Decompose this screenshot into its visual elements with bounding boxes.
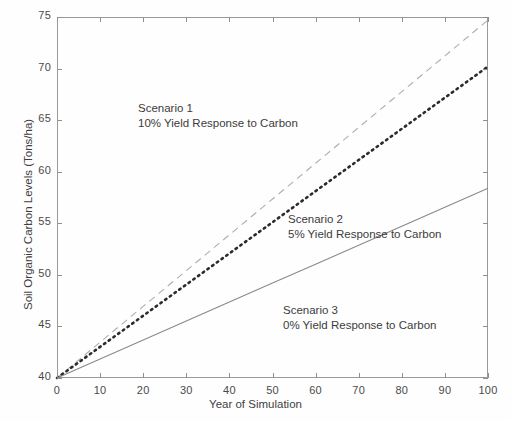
annotation-scenario-1-title: Scenario 1: [138, 102, 193, 114]
annotation-scenario-3-title: Scenario 3: [283, 304, 338, 316]
x-tick-top-50: [273, 17, 274, 22]
annotation-scenario-3-subtitle: 0% Yield Response to Carbon: [283, 318, 436, 333]
x-tick-70: [359, 373, 360, 378]
y-tick-label-70: 70: [11, 61, 51, 73]
annotation-scenario-3: Scenario 3 0% Yield Response to Carbon: [283, 303, 436, 333]
x-tick-40: [229, 373, 230, 378]
annotation-scenario-2-title: Scenario 2: [288, 213, 343, 225]
annotation-scenario-2: Scenario 2 5% Yield Response to Carbon: [288, 212, 441, 242]
y-tick-70: [57, 69, 62, 70]
y-tick-right-50: [483, 275, 488, 276]
x-tick-label-100: 100: [468, 384, 508, 396]
x-tick-label-80: 80: [382, 384, 422, 396]
x-tick-label-0: 0: [37, 384, 77, 396]
x-tick-top-30: [186, 17, 187, 22]
annotation-scenario-2-subtitle: 5% Yield Response to Carbon: [288, 227, 441, 242]
y-tick-40: [57, 378, 62, 379]
y-tick-right-55: [483, 223, 488, 224]
x-tick-top-20: [143, 17, 144, 22]
x-tick-50: [273, 373, 274, 378]
y-tick-right-65: [483, 120, 488, 121]
x-tick-label-20: 20: [123, 384, 163, 396]
x-tick-top-90: [445, 17, 446, 22]
x-tick-60: [316, 373, 317, 378]
x-tick-100: [488, 373, 489, 378]
x-tick-label-40: 40: [209, 384, 249, 396]
y-axis-title: Soil Organic Carbon Levels (Tons/ha): [22, 119, 34, 310]
x-axis-title: Year of Simulation: [0, 398, 511, 410]
x-tick-label-50: 50: [253, 384, 293, 396]
x-tick-top-60: [316, 17, 317, 22]
y-tick-45: [57, 326, 62, 327]
x-tick-label-70: 70: [339, 384, 379, 396]
x-tick-90: [445, 373, 446, 378]
x-tick-top-70: [359, 17, 360, 22]
x-tick-top-80: [402, 17, 403, 22]
x-tick-top-10: [100, 17, 101, 22]
x-tick-top-100: [488, 17, 489, 22]
x-tick-label-60: 60: [296, 384, 336, 396]
chart-page: 01020304050607080901004045505560657075 Y…: [0, 0, 511, 421]
x-tick-30: [186, 373, 187, 378]
x-tick-80: [402, 373, 403, 378]
y-tick-right-70: [483, 69, 488, 70]
annotation-scenario-1-subtitle: 10% Yield Response to Carbon: [138, 116, 298, 131]
x-tick-10: [100, 373, 101, 378]
y-tick-label-75: 75: [11, 9, 51, 21]
y-tick-right-60: [483, 172, 488, 173]
y-tick-right-45: [483, 326, 488, 327]
annotation-scenario-1: Scenario 1 10% Yield Response to Carbon: [138, 101, 298, 131]
y-tick-right-40: [483, 378, 488, 379]
x-tick-label-10: 10: [80, 384, 120, 396]
x-tick-top-40: [229, 17, 230, 22]
x-tick-20: [143, 373, 144, 378]
x-tick-label-30: 30: [166, 384, 206, 396]
y-tick-65: [57, 120, 62, 121]
x-tick-label-90: 90: [425, 384, 465, 396]
y-tick-55: [57, 223, 62, 224]
y-tick-label-40: 40: [11, 370, 51, 382]
y-tick-label-45: 45: [11, 318, 51, 330]
y-tick-50: [57, 275, 62, 276]
y-tick-right-75: [483, 17, 488, 18]
y-tick-75: [57, 17, 62, 18]
y-tick-60: [57, 172, 62, 173]
